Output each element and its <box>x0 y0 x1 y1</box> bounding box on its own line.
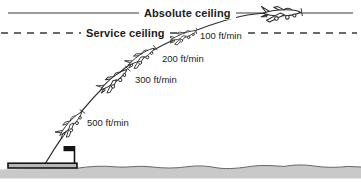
climb-rate-label-200: 200 ft/min <box>159 53 207 65</box>
airplane-icon-level <box>261 5 303 22</box>
airplane-icon-300fpm <box>96 64 133 97</box>
airplane-icon-200fpm <box>124 43 159 72</box>
climb-performance-diagram: Absolute ceiling Service ceiling 100 ft/… <box>0 0 361 185</box>
climb-rate-label-100: 100 ft/min <box>197 30 245 42</box>
diagram-canvas <box>0 0 361 185</box>
runway <box>8 163 77 168</box>
absolute-ceiling-label: Absolute ceiling <box>139 7 236 20</box>
airplane-icon-100fpm <box>168 26 200 47</box>
climb-rate-label-300: 300 ft/min <box>132 74 180 86</box>
flag-icon <box>64 146 75 163</box>
service-ceiling-label: Service ceiling <box>81 27 170 40</box>
climb-rate-label-500: 500 ft/min <box>84 117 132 129</box>
